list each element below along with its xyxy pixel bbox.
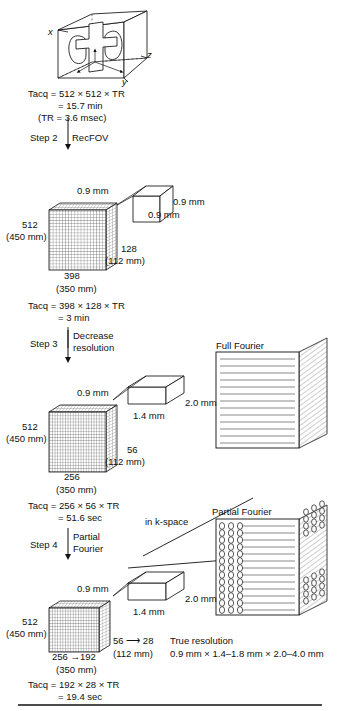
block2-left-count: 512 [22,219,38,231]
voxel-box-step4 [113,572,184,600]
true-resolution-label: True resolution [170,635,233,647]
block4-right-mm: (112 mm) [113,648,153,660]
block3-bottom-mm: (350 mm) [56,484,97,496]
step2-action: RecFOV [72,132,108,144]
tacq-step1-line1: Tacq = 512 × 512 × TR [28,88,125,100]
block4-left-mm: (450 mm) [6,628,47,640]
anatomy-cube [58,11,147,82]
block3-right-mm: (112 mm) [105,456,145,468]
axis-label-y: y [122,76,127,88]
block2-right-mm: (112 mm) [105,255,145,267]
axis-label-x: x [48,26,53,38]
voxel3-dim-top: 0.9 mm [77,387,109,399]
tacq-step2-line1: Tacq = 398 × 128 × TR [28,300,125,312]
tacq-step1-line2: = 15.7 min [58,100,103,112]
block4-bottom-mm: (350 mm) [56,664,97,676]
partial-fourier-label: Partial Fourier [212,506,272,518]
partial-fourier-panel [216,501,327,615]
block3-left-count: 512 [22,421,38,433]
block4-left-count: 512 [22,616,38,628]
block2-right-count: 128 [121,243,137,255]
block4-bottom-count: 256 →192 [52,651,96,663]
voxel2-dim-front: 0.9 mm [148,209,180,221]
block4-right-count: 56 ⟶ 28 [113,635,153,647]
tacq-step2-line2: = 3 min [58,312,89,324]
voxel4-dim-right: 2.0 mm [185,593,217,605]
step3-action-line1: Decrease [73,330,114,342]
step4-action-line2: Fourier [73,543,103,555]
diagram-linework [0,0,338,711]
data-block-step4 [49,601,110,652]
block2-left-mm: (450 mm) [6,231,47,243]
kspace-caption: in k-space [145,516,188,528]
block3-bottom-count: 256 [64,471,80,483]
tacq-step4-line2: = 19.4 sec [58,691,102,703]
figure-canvas: x z y Tacq = 512 × 512 × TR = 15.7 min (… [0,0,338,711]
voxel2-dim-top: 0.9 mm [77,185,109,197]
tacq-step1-line3: (TR = 3.6 msec) [38,112,106,124]
step2-label: Step 2 [30,132,57,144]
true-resolution-value: 0.9 mm × 1.4–1.8 mm × 2.0–4.0 mm [170,648,324,660]
voxel2-dim-right: 0.9 mm [173,196,205,208]
step4-label: Step 4 [30,539,57,551]
voxel4-dim-front: 1.4 mm [133,606,165,618]
voxel4-dim-top: 0.9 mm [77,583,109,595]
step3-label: Step 3 [30,338,57,350]
tacq-step4-line1: Tacq = 192 × 28 × TR [28,679,119,691]
axis-label-z: z [147,49,152,61]
block3-right-count: 56 [127,444,138,456]
voxel-box-step3 [113,376,184,404]
voxel3-dim-right: 2.0 mm [185,397,217,409]
step4-action-line1: Partial [73,531,100,543]
step3-action-line2: resolution [73,342,114,354]
block3-left-mm: (450 mm) [6,433,47,445]
voxel3-dim-front: 1.4 mm [133,410,165,422]
full-fourier-label: Full Fourier [216,340,264,352]
full-fourier-panel [216,338,327,448]
block2-bottom-mm: (350 mm) [56,283,97,295]
tacq-step3-line2: = 51.6 sec [58,512,102,524]
tacq-step3-line1: Tacq = 256 × 56 × TR [28,500,119,512]
block2-bottom-count: 398 [64,270,80,282]
